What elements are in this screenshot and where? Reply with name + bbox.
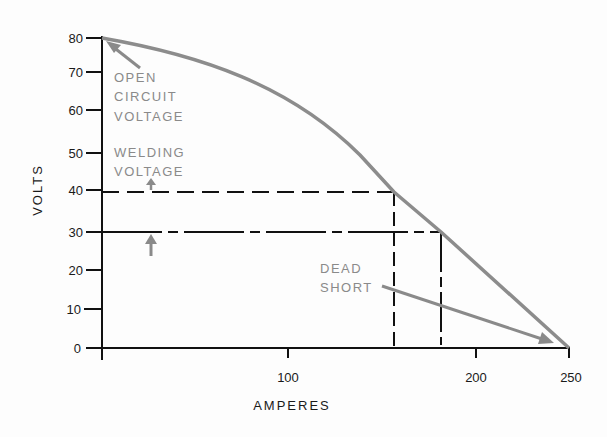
x-tick-250: 250 [560,370,582,385]
y-tick-80: 80 [69,31,83,46]
y-tick-0: 0 [74,341,81,356]
volt-ampere-chart: 80 70 60 50 40 30 20 10 0 100 200 250 AM… [0,0,607,437]
x-tick-200: 200 [465,370,487,385]
svg-text:WELDING: WELDING [114,145,185,160]
y-ticks [84,38,102,309]
dead-short-label: DEAD SHORT [320,261,373,295]
open-circuit-voltage-label: OPEN CIRCUIT VOLTAGE [114,70,184,124]
svg-text:VOLTAGE: VOLTAGE [114,164,184,179]
svg-text:CIRCUIT: CIRCUIT [114,89,177,104]
svg-text:DEAD: DEAD [320,261,362,276]
y-tick-labels: 80 70 60 50 40 30 20 10 0 [67,31,83,356]
y-tick-70: 70 [69,65,83,80]
x-tick-labels: 100 200 250 [277,370,582,385]
welding-30v-arrow-icon [145,234,157,256]
x-ticks [288,348,569,358]
y-tick-10: 10 [67,302,81,317]
y-tick-20: 20 [69,263,83,278]
x-axis-title: AMPERES [253,398,331,413]
y-tick-30: 30 [69,225,83,240]
svg-text:VOLTAGE: VOLTAGE [114,109,184,124]
dead-short-arrow-icon [382,286,554,344]
welding-voltage-label: WELDING VOLTAGE [114,145,185,179]
svg-text:SHORT: SHORT [320,280,373,295]
y-tick-60: 60 [69,103,83,118]
welding-40v-arrow-icon [146,178,156,190]
y-tick-40: 40 [69,183,83,198]
y-axis-title: VOLTS [30,164,45,216]
x-tick-100: 100 [277,370,299,385]
svg-text:OPEN: OPEN [114,70,157,85]
y-tick-50: 50 [69,146,83,161]
